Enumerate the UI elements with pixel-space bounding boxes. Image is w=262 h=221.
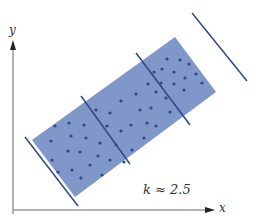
annotation-k: k ≈ 2.5 [143, 182, 191, 197]
y-axis-label: y [9, 23, 16, 37]
cut-line-4 [192, 13, 247, 81]
shaded-band [32, 37, 216, 197]
y-axis-arrow-icon [10, 40, 16, 50]
x-axis-label: x [219, 201, 226, 215]
diagram-canvas [0, 0, 262, 221]
x-axis-arrow-icon [205, 207, 215, 213]
